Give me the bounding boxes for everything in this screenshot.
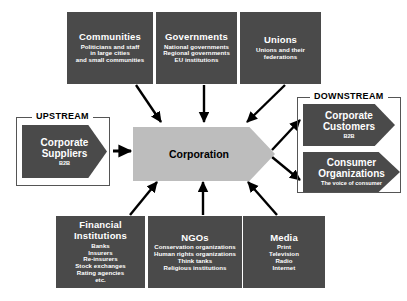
arrow-corporation-to-consumer-organizations [272, 157, 300, 180]
node-corporate-suppliers-sub: B2B [59, 160, 70, 166]
node-media-lines: Print Television Radio Internet [269, 244, 299, 271]
node-financial-institutions-lines: Banks Insurers Re-insurers Stock exchang… [75, 243, 126, 284]
node-ngos-lines: Conservation organizations Human rights … [154, 244, 236, 271]
arrow-corporation-to-corporate-customers [272, 120, 300, 150]
node-corporate-customers-sub: B2B [343, 133, 354, 139]
node-ngos-title: NGOs [181, 233, 209, 244]
node-governments[interactable]: Governments National governments Regiona… [156, 12, 237, 84]
node-corporate-customers-title: Corporate Customers [323, 110, 375, 132]
node-communities-title: Communities [79, 32, 141, 43]
downstream-group-label: DOWNSTREAM [310, 91, 388, 101]
node-communities-lines: Politicians and staff in large cities an… [76, 44, 144, 64]
node-corporation[interactable]: Corporation [133, 127, 275, 181]
node-consumer-organizations-title: Consumer Organizations [318, 157, 385, 179]
node-media-title: Media [270, 233, 298, 244]
node-corporate-suppliers-title: Corporate Suppliers [41, 137, 89, 159]
node-governments-lines: National governments Regional government… [163, 44, 230, 64]
node-governments-title: Governments [165, 32, 228, 43]
node-unions-title: Unions [264, 35, 297, 46]
node-communities[interactable]: Communities Politicians and staff in lar… [67, 12, 153, 84]
node-ngos[interactable]: NGOs Conservation organizations Human ri… [148, 216, 242, 288]
node-unions-lines: Unions and their federations [256, 47, 305, 61]
stakeholder-diagram: Communities Politicians and staff in lar… [0, 0, 407, 301]
node-financial-institutions-title: Financial Institutions [56, 220, 145, 241]
node-consumer-organizations-sub: The voice of consumer [321, 180, 382, 186]
node-financial-institutions[interactable]: Financial Institutions Banks Insurers Re… [56, 216, 145, 288]
upstream-group-label: UPSTREAM [32, 111, 93, 121]
arrow-unions-to-corporation [247, 85, 285, 122]
arrow-media-to-corporation [248, 182, 277, 215]
node-media[interactable]: Media Print Television Radio Internet [243, 216, 325, 288]
node-unions[interactable]: Unions Unions and their federations [240, 12, 321, 84]
node-corporation-title: Corporation [169, 148, 229, 160]
arrow-communities-to-corporation [136, 85, 161, 122]
arrow-financial-institutions-to-corporation [130, 182, 157, 215]
